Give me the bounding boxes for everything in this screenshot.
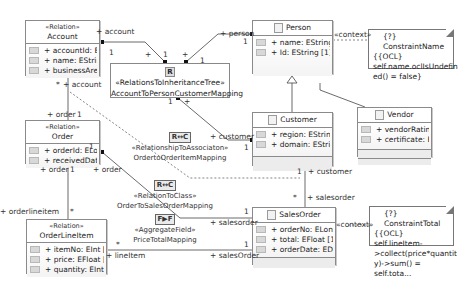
attribute[interactable]: + accountId: E...: [28, 46, 97, 56]
multiplicity: 1: [244, 143, 249, 152]
mapping-stereotype: «RelationsToInheritanceTree»: [115, 78, 225, 87]
multiplicity: 1: [168, 97, 173, 106]
mapping-stereotype: «RelationToClass»: [100, 191, 230, 201]
attribute[interactable]: + certificate: E...: [360, 135, 429, 145]
constraint-title: {?} ConstraintName: [373, 32, 449, 52]
class-icon: [375, 110, 384, 120]
relation-to-class-icon: R↔C: [169, 132, 191, 143]
role-salesorder: + salesorder: [307, 193, 355, 202]
class-name: OrderLineItem: [29, 231, 104, 240]
attribute-icon: [256, 39, 266, 46]
class-name: Vendor: [387, 110, 413, 119]
attribute[interactable]: + orderNo: ELong ...: [255, 225, 333, 235]
multiplicity: 1: [163, 50, 168, 59]
class-vendor[interactable]: Vendor + vendorRating... + certificate: …: [357, 107, 432, 157]
attribute-icon: [30, 266, 40, 273]
multiplicity: 1: [70, 165, 75, 174]
attribute-icon: [29, 47, 39, 54]
relation-badge-icon: R: [165, 67, 174, 77]
role-customer: + customer: [308, 167, 352, 176]
attribute[interactable]: + quantity: EInt [1]: [29, 265, 104, 275]
attribute[interactable]: + vendorRating...: [360, 125, 429, 135]
multiplicity: 1: [109, 48, 114, 57]
class-person[interactable]: Person + name: EString [1] + Id: EString…: [252, 20, 333, 74]
class-icon: [267, 210, 276, 220]
class-header: «Relation» OrderLineItem: [27, 220, 106, 243]
class-name: Order: [28, 132, 97, 141]
class-header: «Relation» Order: [26, 121, 99, 144]
mapping-account-to-person-customer[interactable]: R «RelationsToInheritanceTree» AccountTo…: [110, 63, 230, 98]
role-account: + account: [63, 80, 102, 89]
class-header: Customer: [253, 113, 332, 128]
attribute-icon: [29, 67, 39, 74]
multiplicity: 1: [244, 207, 249, 216]
class-customer[interactable]: Customer + region: EString [1] + domain:…: [252, 112, 333, 166]
role-order: + order: [47, 110, 76, 119]
class-name: Customer: [280, 115, 316, 124]
attribute-icon: [361, 126, 371, 133]
constraint-total-note[interactable]: {?} ConstraintTotal {{OCL} self.lineItem…: [369, 206, 454, 246]
role-order: + order: [40, 165, 69, 174]
stereotype: «Relation»: [28, 23, 97, 32]
aggregate-field-icon: F▶F: [155, 214, 176, 225]
class-account[interactable]: «Relation» Account + accountId: E... + n…: [25, 20, 100, 76]
attribute[interactable]: + businessArea...: [28, 66, 97, 76]
attribute-icon: [30, 246, 40, 253]
context-label: «context»: [334, 30, 371, 39]
attribute[interactable]: + orderId: ELo...: [28, 146, 97, 156]
operations-section: [253, 257, 335, 268]
multiplicity: *: [116, 240, 120, 249]
multiplicity: *: [293, 193, 297, 202]
attribute-icon: [256, 141, 266, 148]
constraint-line: ed() = false}: [373, 72, 449, 82]
constraint-line: {{OCL}: [373, 52, 449, 62]
class-header: Person: [253, 21, 332, 36]
role-lineitem: + lineItem: [106, 251, 145, 260]
attribute[interactable]: + total: EFloat [1]: [255, 235, 333, 245]
role-plus: +: [184, 97, 190, 106]
multiplicity: 1: [244, 240, 249, 249]
attribute-icon: [361, 136, 371, 143]
attribute-icon: [256, 226, 266, 233]
attribute[interactable]: + domain: EString...: [255, 140, 330, 150]
operations-section: [358, 149, 431, 158]
attribute[interactable]: + Id: EString [1]: [255, 48, 330, 58]
class-header: «Relation» Account: [26, 21, 99, 44]
attribute-icon: [30, 256, 40, 263]
class-orderlineitem[interactable]: «Relation» OrderLineItem + itemNo: EInt …: [26, 219, 107, 274]
multiplicity: 1: [297, 167, 302, 176]
multiplicity: 1: [200, 56, 205, 65]
mapping-name: OrderToSalesOrderMapping: [100, 201, 230, 211]
attribute-icon: [29, 147, 39, 154]
class-name: Account: [28, 32, 97, 41]
attribute-icon: [29, 57, 39, 64]
role-salesorder: + salesorder: [210, 218, 258, 227]
constraint-name-note[interactable]: {?} ConstraintName {{OCL} self.name.oclI…: [368, 29, 454, 69]
extra-section: [358, 158, 431, 165]
constraint-line: self.name.oclIsUndefin: [373, 62, 449, 72]
attribute[interactable]: + name: EString [1]: [255, 38, 330, 48]
class-salesorder[interactable]: SalesOrder + orderNo: ELong ... + total:…: [252, 207, 336, 265]
mapping-order-to-salesorder[interactable]: R↔C «RelationToClass» OrderToSalesOrderM…: [100, 180, 230, 211]
attribute[interactable]: + name: EStrin...: [28, 56, 97, 66]
constraint-line: >collect(price*quantit: [374, 249, 449, 259]
role-plus: +: [182, 50, 188, 59]
attribute[interactable]: + orderDate: EDat...: [255, 245, 333, 255]
role-person: + person: [220, 29, 254, 38]
multiplicity: *: [56, 80, 60, 89]
class-header: Vendor: [358, 108, 431, 123]
attribute[interactable]: + price: EFloat [1]: [29, 255, 104, 265]
constraint-title: {?} ConstraintTotal: [374, 209, 449, 229]
mapping-stereotype: «RelationshipToAssociaton»: [115, 143, 245, 153]
class-name: Person: [286, 23, 311, 32]
attribute[interactable]: + itemNo: EInt [1]: [29, 245, 104, 255]
attribute-icon: [256, 236, 266, 243]
multiplicity: 1: [77, 110, 82, 119]
attribute-icon: [29, 157, 39, 164]
mapping-name: OrdertoOrderItemMapping: [115, 153, 245, 163]
attribute[interactable]: + region: EString [1]: [255, 130, 330, 140]
multiplicity: 1: [89, 142, 94, 151]
stereotype: «Relation»: [29, 222, 104, 231]
constraint-line: {{OCL} self.lineItem-: [374, 229, 449, 249]
multiplicity: 1: [243, 37, 248, 46]
